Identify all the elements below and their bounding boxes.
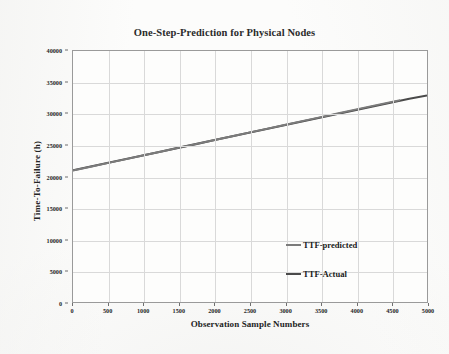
y-axis-tick-label: 5000 [50, 268, 62, 275]
figure-canvas: One-Step-Prediction for Physical Nodes 0… [0, 0, 449, 354]
x-axis-tick-label: 500 [103, 307, 112, 314]
x-axis-tick-label: 5000 [422, 307, 434, 314]
x-axis-tick-mark [143, 303, 144, 306]
x-axis-tick-label: 3000 [279, 307, 291, 314]
y-axis-tick-label: 20000 [47, 173, 62, 180]
series-lines [73, 51, 427, 302]
chart-title: One-Step-Prediction for Physical Nodes [0, 27, 449, 38]
x-axis-tick-mark [321, 303, 322, 306]
x-axis-tick-mark [72, 303, 73, 306]
x-axis-tick-label: 0 [70, 307, 73, 314]
y-axis-tick-mark [65, 271, 68, 272]
x-axis-tick-label: 3500 [315, 307, 327, 314]
legend: TTF-predicted TTF-Actual [286, 240, 357, 279]
y-axis-tick-label: 0 [59, 300, 62, 307]
y-axis-tick-label: 25000 [47, 141, 62, 148]
y-axis-tick-label: 30000 [47, 110, 62, 117]
y-axis-tick-mark [65, 239, 68, 240]
legend-label-actual: TTF-Actual [303, 269, 347, 279]
x-axis-tick-mark [179, 303, 180, 306]
y-axis-tick-label: 10000 [47, 236, 62, 243]
x-axis-tick-mark [250, 303, 251, 306]
grid-line-vertical [358, 51, 359, 302]
x-axis-tick-label: 4000 [351, 307, 363, 314]
y-axis-tick-label: 40000 [47, 47, 62, 54]
x-axis-tick-mark [108, 303, 109, 306]
grid-line-vertical [251, 51, 252, 302]
y-axis-tick-mark [65, 144, 68, 145]
grid-line-vertical [180, 51, 181, 302]
grid-line-horizontal [73, 272, 427, 273]
x-axis-tick-mark [428, 303, 429, 306]
x-axis-tick-label: 1500 [173, 307, 185, 314]
x-axis-tick-mark [214, 303, 215, 306]
x-axis-tick-mark [286, 303, 287, 306]
legend-label-predicted: TTF-predicted [303, 240, 357, 250]
grid-line-vertical [144, 51, 145, 302]
line-ttf-predicted [73, 100, 400, 170]
legend-swatch-actual [286, 273, 301, 275]
y-axis-tick-mark [65, 113, 68, 114]
legend-swatch-predicted [286, 244, 301, 246]
y-axis-tick-mark [65, 303, 68, 304]
y-axis-tick-mark [65, 50, 68, 51]
grid-line-vertical [393, 51, 394, 302]
legend-item-predicted: TTF-predicted [286, 240, 357, 250]
grid-line-horizontal [73, 114, 427, 115]
grid-line-horizontal [73, 178, 427, 179]
x-axis-tick-mark [392, 303, 393, 306]
grid-line-vertical [215, 51, 216, 302]
grid-line-horizontal [73, 241, 427, 242]
grid-line-horizontal [73, 83, 427, 84]
y-axis-tick-label: 35000 [47, 78, 62, 85]
y-axis-tick-label: 15000 [47, 205, 62, 212]
y-axis-tick-mark [65, 81, 68, 82]
x-axis-tick-label: 2500 [244, 307, 256, 314]
y-axis-tick-mark [65, 208, 68, 209]
y-axis-tick-mark [65, 176, 68, 177]
y-axis-label: Time-To-Failure (h) [32, 81, 42, 281]
x-axis-tick-label: 4500 [386, 307, 398, 314]
grid-line-horizontal [73, 209, 427, 210]
x-axis-tick-mark [357, 303, 358, 306]
grid-line-vertical [109, 51, 110, 302]
x-axis-tick-label: 1000 [137, 307, 149, 314]
x-axis-tick-label: 2000 [208, 307, 220, 314]
grid-line-horizontal [73, 146, 427, 147]
legend-item-actual: TTF-Actual [286, 269, 357, 279]
plot-area [72, 50, 428, 303]
x-axis-label: Observation Sample Numbers [72, 319, 428, 329]
